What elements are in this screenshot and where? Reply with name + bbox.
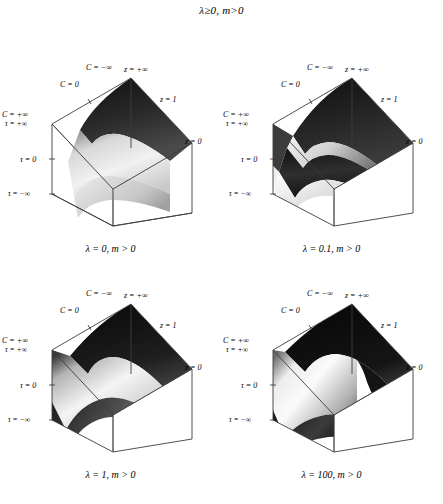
label-tau-negative-infinity: τ = −∞ [229,190,251,198]
cube-graphic-3 [221,252,442,460]
figure-root: λ≥0, m>0 [0,0,443,504]
panel-lambda-0: C = −∞ z = +∞ C = 0 C = +∞ τ = +∞ τ = 0 … [0,26,221,258]
cube-graphic-2 [0,252,221,460]
label-c-zero: C = 0 [60,307,79,315]
label-tau-positive-infinity: τ = +∞ [226,120,248,128]
label-z-positive-infinity: z = +∞ [124,292,148,300]
label-tau-negative-infinity: τ = −∞ [229,416,251,424]
cube-graphic-0 [0,26,221,234]
label-tau-positive-infinity: τ = +∞ [5,346,27,354]
label-c-negative-infinity: C = −∞ [307,290,333,298]
panel-lambda-0.1: C = −∞ z = +∞ C = 0 C = +∞ τ = +∞ τ = 0 … [221,26,442,258]
label-z-one: z = 1 [381,322,398,330]
cube-plot-1: C = −∞ z = +∞ C = 0 C = +∞ τ = +∞ τ = 0 … [221,26,442,234]
label-z-one: z = 1 [381,96,398,104]
label-z-one: z = 1 [160,322,177,330]
cube-graphic-1 [221,26,442,234]
panel-caption-2: λ = 1, m > 0 [0,469,221,480]
label-tau-zero: τ = 0 [20,156,36,164]
label-z-zero: z = 0 [406,138,423,146]
label-z-positive-infinity: z = +∞ [345,292,369,300]
label-c-negative-infinity: C = −∞ [86,290,112,298]
label-z-positive-infinity: z = +∞ [124,66,148,74]
cube-plot-2: C = −∞ z = +∞ C = 0 C = +∞ τ = +∞ τ = 0 … [0,252,221,460]
label-z-one: z = 1 [160,96,177,104]
label-z-positive-infinity: z = +∞ [345,66,369,74]
label-tau-zero: τ = 0 [241,382,257,390]
label-tau-positive-infinity: τ = +∞ [5,120,27,128]
panel-lambda-100: C = −∞ z = +∞ C = 0 C = +∞ τ = +∞ τ = 0 … [221,252,442,484]
label-c-zero: C = 0 [281,307,300,315]
panel-caption-3: λ = 100, m > 0 [221,469,442,480]
label-z-zero: z = 0 [185,138,202,146]
cube-plot-3: C = −∞ z = +∞ C = 0 C = +∞ τ = +∞ τ = 0 … [221,252,442,460]
label-tau-zero: τ = 0 [241,156,257,164]
label-c-zero: C = 0 [60,81,79,89]
label-tau-zero: τ = 0 [20,382,36,390]
label-c-negative-infinity: C = −∞ [307,64,333,72]
label-c-negative-infinity: C = −∞ [86,64,112,72]
label-z-zero: z = 0 [406,364,423,372]
cube-plot-0: C = −∞ z = +∞ C = 0 C = +∞ τ = +∞ τ = 0 … [0,26,221,234]
label-tau-negative-infinity: τ = −∞ [8,416,30,424]
label-c-zero: C = 0 [281,81,300,89]
label-z-zero: z = 0 [185,364,202,372]
label-tau-positive-infinity: τ = +∞ [226,346,248,354]
label-tau-negative-infinity: τ = −∞ [8,190,30,198]
figure-title: λ≥0, m>0 [0,4,443,16]
panel-lambda-1: C = −∞ z = +∞ C = 0 C = +∞ τ = +∞ τ = 0 … [0,252,221,484]
